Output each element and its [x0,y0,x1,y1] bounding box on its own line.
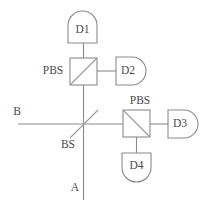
detector-d2-label: D2 [121,64,135,76]
optical-diagram: D1 D2 D3 D4 PBS PBS BS A B [0,0,211,207]
pbs-left-label: PBS [43,64,63,76]
pbs-right [123,110,150,137]
detector-d4-label: D4 [129,159,143,171]
pbs-left [70,58,97,85]
port-b-label: B [13,105,21,117]
detector-d1-label: D1 [75,23,89,35]
pbs-right-label: PBS [130,94,150,106]
beam-splitter-label: BS [61,138,75,150]
port-a-label: A [71,181,80,193]
detector-d3-label: D3 [173,117,187,129]
optics-canvas: D1 D2 D3 D4 PBS PBS BS A B [0,0,211,207]
